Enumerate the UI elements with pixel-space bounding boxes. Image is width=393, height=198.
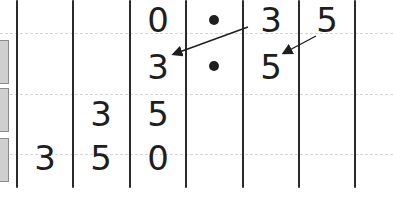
arrow-icon bbox=[284, 36, 316, 53]
arrow-icon bbox=[174, 27, 248, 54]
shift-arrows bbox=[0, 0, 393, 198]
